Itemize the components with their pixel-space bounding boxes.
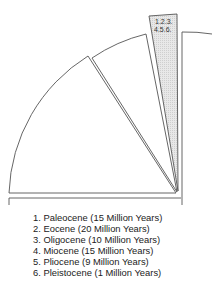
legend-item-pleistocene: 6. Pleistocene (1 Million Years) (33, 267, 162, 278)
wedge-lower-edge (9, 198, 181, 205)
legend-number: 3. (33, 234, 41, 245)
legend-item-pliocene: 5. Pliocene (9 Million Years) (33, 256, 162, 267)
wedge-label-line1: 1.2.3. (155, 18, 173, 25)
legend-number: 4. (33, 245, 41, 256)
legend-label: Miocene (15 Million Years) (43, 245, 153, 256)
legend-item-miocene: 4. Miocene (15 Million Years) (33, 245, 162, 256)
legend-item-oligocene: 3. Oligocene (10 Million Years) (33, 234, 162, 245)
legend-number: 6. (33, 267, 41, 278)
wedge-label-line2: 4.5.6. (154, 26, 172, 33)
legend-label: Paleocene (15 Million Years) (43, 212, 162, 223)
legend-label: Oligocene (10 Million Years) (43, 234, 160, 245)
legend-item-eocene: 2. Eocene (20 Million Years) (33, 223, 162, 234)
legend-number: 2. (33, 223, 41, 234)
legend-label: Pleistocene (1 Million Years) (43, 267, 161, 278)
legend: 1. Paleocene (15 Million Years) 2. Eocen… (33, 212, 162, 278)
legend-number: 5. (33, 256, 41, 267)
legend-number: 1. (33, 212, 41, 223)
legend-item-paleocene: 1. Paleocene (15 Million Years) (33, 212, 162, 223)
legend-label: Eocene (20 Million Years) (43, 223, 149, 234)
exploded-pie-diagram: 1.2.3. 4.5.6. (0, 0, 215, 205)
wedge-right-edge (182, 32, 212, 205)
legend-label: Pliocene (9 Million Years) (43, 256, 148, 267)
